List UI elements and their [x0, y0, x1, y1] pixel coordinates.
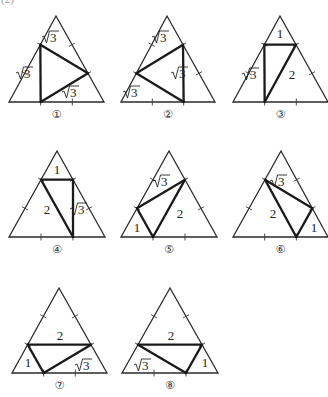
figure-caption: ⑤: [164, 243, 174, 256]
svg-text:3: 3: [278, 174, 285, 189]
svg-text:3: 3: [70, 85, 77, 100]
side-length-label: 3: [134, 358, 151, 373]
side-length-label: 2: [270, 206, 277, 221]
side-length-label: 1: [311, 220, 318, 235]
figure-4: 123④: [9, 151, 105, 256]
svg-text:3: 3: [250, 67, 257, 82]
side-length-label: 3: [42, 30, 59, 45]
figure-caption: ①: [52, 108, 62, 121]
cut-line: [40, 45, 88, 74]
svg-text:3: 3: [179, 66, 186, 81]
side-length-label: 3: [152, 30, 169, 45]
side-length-label: 2: [177, 206, 184, 221]
figure-3: 132③: [233, 16, 328, 121]
figure-1: 333①: [9, 16, 104, 121]
side-length-label: 3: [123, 85, 140, 100]
triangle-partition-diagram: 333①333②132③123④312⑤321⑥213⑦231⑧: [0, 0, 328, 397]
side-length-label: 2: [289, 67, 296, 82]
figure-caption: ⑥: [276, 243, 286, 256]
figure-caption: ②: [163, 108, 173, 121]
svg-text:3: 3: [83, 358, 90, 373]
figure-7: 213⑦: [12, 288, 107, 392]
cut-line: [136, 73, 183, 102]
cut-line: [186, 345, 202, 373]
figure-caption: ⑦: [55, 379, 65, 392]
svg-text:3: 3: [78, 202, 85, 217]
figure-caption: ⑧: [165, 379, 175, 392]
side-length-label: 1: [54, 162, 61, 177]
svg-text:3: 3: [50, 30, 57, 45]
side-length-label: 2: [168, 328, 175, 343]
side-length-label: 2: [57, 328, 64, 343]
figure-caption: ④: [52, 243, 62, 256]
figure-2: 333②: [121, 16, 215, 121]
figure-5: 312⑤: [121, 151, 217, 256]
svg-text:3: 3: [161, 174, 168, 189]
side-length-label: 1: [25, 355, 32, 370]
figure-caption: ③: [276, 108, 286, 121]
side-length-label: 2: [44, 202, 51, 217]
cut-line: [41, 73, 88, 102]
svg-text:3: 3: [131, 85, 138, 100]
figure-8: 231⑧: [122, 288, 218, 392]
svg-text:3: 3: [24, 66, 31, 81]
side-length-label: 1: [134, 220, 141, 235]
svg-text:3: 3: [160, 30, 167, 45]
side-length-label: 3: [16, 66, 33, 81]
outer-triangle: [9, 16, 104, 102]
figure-6: 321⑥: [233, 151, 328, 256]
side-length-label: 3: [171, 66, 188, 81]
side-length-label: 3: [270, 174, 287, 189]
side-length-label: 3: [75, 358, 92, 373]
side-length-label: 1: [277, 26, 284, 41]
svg-text:3: 3: [142, 358, 149, 373]
side-length-label: 1: [202, 355, 209, 370]
